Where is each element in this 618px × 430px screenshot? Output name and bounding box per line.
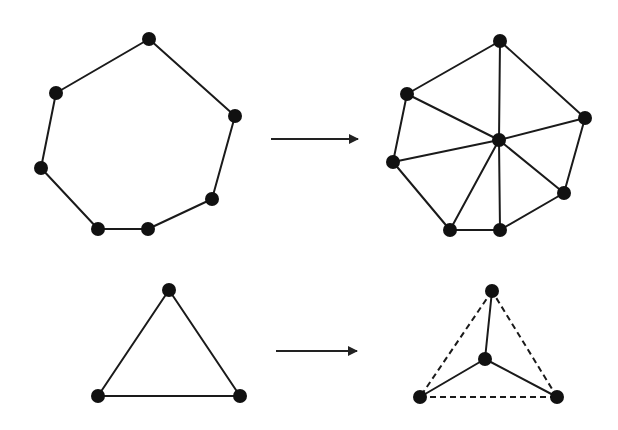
edge [564,118,585,193]
edge [56,39,149,93]
vertex-node [413,390,427,404]
panel-heptagon-before [34,32,242,236]
vertex-node [205,192,219,206]
edge [450,140,499,230]
edge [499,140,500,230]
vertex-node [141,222,155,236]
dashed-edge [420,291,492,397]
edge [41,168,98,229]
vertex-node [557,186,571,200]
vertex-node [493,34,507,48]
vertex-node [49,86,63,100]
vertex-node [228,109,242,123]
vertex-node [142,32,156,46]
edge [393,162,450,230]
edge [500,41,585,118]
panel-heptagon-after [386,34,592,237]
vertex-node [485,284,499,298]
vertex-node [443,223,457,237]
vertex-node [162,283,176,297]
edge [393,94,407,162]
edge [149,39,235,116]
dashed-edge [492,291,557,397]
diagram-canvas [0,0,618,430]
vertex-node [91,222,105,236]
edge [500,193,564,230]
edge [420,359,485,397]
edge [169,290,240,396]
edge [499,118,585,140]
vertex-node [578,111,592,125]
edge [499,41,500,140]
vertex-node [233,389,247,403]
vertex-node [34,161,48,175]
vertex-node [478,352,492,366]
edge [393,140,499,162]
edge [407,41,500,94]
panel-triangle-after [413,284,564,404]
edge [98,290,169,396]
vertex-node [400,87,414,101]
vertex-node [492,133,506,147]
vertex-node [493,223,507,237]
edge [407,94,499,140]
vertex-node [386,155,400,169]
vertex-node [550,390,564,404]
panel-triangle-before [91,283,247,403]
edge [499,140,564,193]
edge [148,199,212,229]
edge [212,116,235,199]
edge [41,93,56,168]
vertex-node [91,389,105,403]
